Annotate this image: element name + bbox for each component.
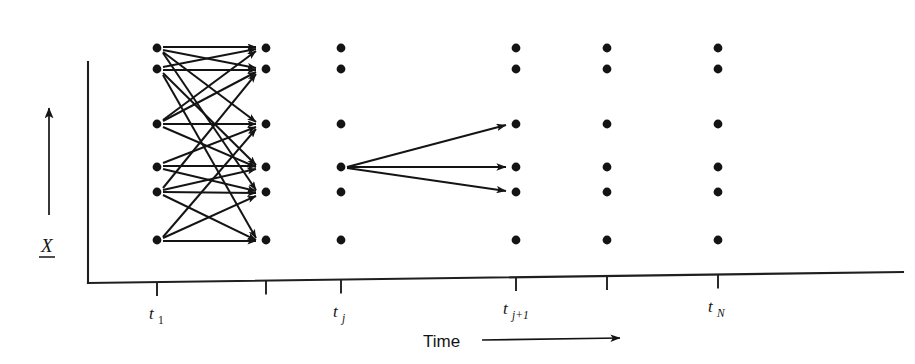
lattice-dot [603, 120, 612, 129]
lattice-dot [337, 163, 346, 172]
transition-edge [163, 75, 256, 238]
transition-edge [163, 192, 256, 193]
x-tick-label-tj-base: t [333, 302, 339, 321]
time-direction-arrow-icon [482, 338, 620, 340]
lattice-dot [603, 188, 612, 197]
lattice-dot [714, 236, 723, 245]
lattice-dot [337, 44, 346, 53]
lattice-dot [512, 120, 521, 129]
lattice-dot [262, 44, 271, 53]
y-axis-title-group: X [39, 108, 55, 257]
x-tick-label-tN-base: t [708, 297, 714, 316]
lattice-dot [262, 120, 271, 129]
lattice-dot [337, 188, 346, 197]
lattice-dot [337, 236, 346, 245]
lattice-dot [153, 44, 162, 53]
lattice-dot [262, 163, 271, 172]
x-tick-label-tN-sub: N [716, 307, 726, 319]
x-tick-labels: t 1 t j t j+1 t N [149, 297, 726, 326]
x-tick-label-tj-sub: j [340, 312, 345, 325]
x-tick-label-t1-base: t [149, 304, 155, 323]
lattice-dot [153, 163, 162, 172]
trellis-figure: t 1 t j t j+1 t N Time X [0, 0, 915, 364]
left-cluster-transitions [163, 47, 256, 241]
fan-edge-up [347, 125, 506, 167]
transition-edge [163, 72, 256, 121]
x-tick-label-tj1-sub: j+1 [510, 309, 529, 322]
x-tick-label-t1-sub: 1 [158, 314, 164, 326]
lattice-dot [153, 236, 162, 245]
lattice-dot [153, 120, 162, 129]
lattice-dot [337, 120, 346, 129]
x-axis-title: Time [423, 332, 460, 351]
lattice-dot [512, 44, 521, 53]
lattice-dot [153, 188, 162, 197]
lattice-dot [714, 120, 723, 129]
lattice-dot [512, 188, 521, 197]
lattice-dot [512, 65, 521, 74]
lattice-dot [512, 163, 521, 172]
x-tick-label-tj1-base: t [503, 299, 509, 318]
lattice-dot [337, 65, 346, 74]
lattice-dot [262, 65, 271, 74]
lattice-dot [262, 188, 271, 197]
lattice-dot [714, 44, 723, 53]
lattice-dot [714, 188, 723, 197]
fan-edge-down [347, 168, 506, 191]
x-axis-title-group: Time [423, 332, 620, 351]
x-axis-line [88, 272, 903, 283]
figure-canvas: t 1 t j t j+1 t N Time X [0, 0, 915, 364]
lattice-dot [153, 65, 162, 74]
lattice-dot [512, 236, 521, 245]
lattice-dot [262, 236, 271, 245]
lattice-dot [603, 163, 612, 172]
lattice-dot [714, 163, 723, 172]
lattice-dot [603, 65, 612, 74]
lattice-dot [603, 44, 612, 53]
fan-out-transitions [347, 125, 506, 191]
lattice-dot [714, 65, 723, 74]
y-axis-title: X [40, 235, 54, 256]
lattice-dot [603, 236, 612, 245]
